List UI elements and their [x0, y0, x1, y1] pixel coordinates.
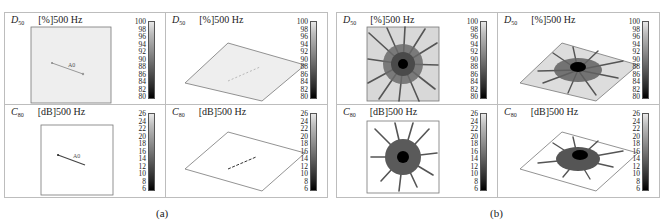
panel-d50-top-b: D50[%]500 Hz 10098969492908886848280 — [337, 13, 498, 105]
colorbar — [148, 113, 155, 191]
colorbar — [642, 21, 649, 99]
figure-group-b: D50[%]500 Hz 10098969492908886848280 D50… — [336, 12, 660, 198]
panel-c80-oblique-a: C80[dB]500 Hz 26242220181614121086 — [166, 105, 327, 197]
colorbar — [480, 21, 487, 99]
panel-d50-oblique-b: D50[%]500 Hz 10098969492908886848280 — [498, 13, 659, 105]
svg-text:A0: A0 — [73, 153, 80, 159]
colorbar — [480, 113, 487, 191]
panel-c80-oblique-b: C80[dB]500 Hz 26242220181614121086 — [498, 105, 659, 197]
panel-d50-oblique-a: D50[%]500 Hz 10098969492908886848280 — [166, 13, 327, 105]
colorbar-ticks: 10098969492908886848280 — [122, 18, 146, 100]
caption-a: (a) — [156, 207, 168, 219]
colorbar — [148, 21, 155, 99]
caption-b: (b) — [490, 207, 503, 219]
figure-group-a: D50[%]500 Hz A0 10098969492908886848280 … — [4, 12, 328, 198]
panel-c80-top-a: C80[dB]500 Hz A0 26242220181614121086 — [5, 105, 166, 197]
colorbar — [642, 113, 649, 191]
colorbar — [310, 21, 317, 99]
panel-d50-top-a: D50[%]500 Hz A0 10098969492908886848280 — [5, 13, 166, 105]
colorbar — [310, 113, 317, 191]
svg-text:A0: A0 — [68, 62, 75, 68]
panel-c80-top-b: C80[dB]500 Hz 26242220181614121086 — [337, 105, 498, 197]
